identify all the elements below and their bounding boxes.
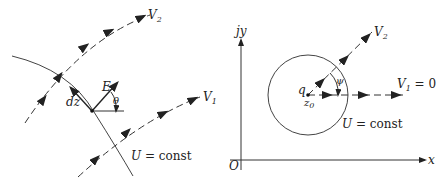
label-v1-left: V1 [203, 90, 217, 106]
label-origin: O [229, 159, 239, 173]
arrow-icon [126, 130, 129, 133]
label-x: x [428, 153, 435, 167]
label-dz: dz [66, 95, 81, 109]
arrow-icon [320, 80, 323, 83]
label-psi: ψ [336, 75, 344, 86]
left-panel: V2 V1 E θ dz U = const [12, 8, 217, 177]
label-v1-right: V1 = 0 [397, 77, 436, 93]
label-e: E [101, 80, 111, 94]
arrow-icon [83, 45, 87, 48]
field-line-v1 [78, 97, 200, 177]
label-jy: jy [233, 24, 247, 38]
arrow-icon [366, 35, 369, 38]
right-panel: jy x O V2 V1 = 0 q z0 ψ U = const [229, 24, 436, 173]
label-u-const-left: U = const [131, 149, 192, 163]
arrow-icon [344, 57, 347, 60]
arrow-icon [42, 97, 45, 101]
arrow-icon [192, 98, 196, 100]
arrow-icon [108, 30, 112, 32]
arrow-icon [162, 112, 166, 114]
label-theta: θ [113, 95, 119, 106]
label-z0: z0 [303, 97, 314, 110]
equipotential-curve [12, 56, 133, 176]
point-dot [90, 109, 94, 113]
label-q: q [298, 83, 306, 97]
diagram-canvas: V2 V1 E θ dz U = const jy x O V2 V1 = 0 … [0, 0, 439, 183]
label-u-const-right: U = const [342, 117, 403, 131]
label-v2-right: V2 [374, 25, 388, 41]
label-v2-left: V2 [148, 8, 162, 24]
